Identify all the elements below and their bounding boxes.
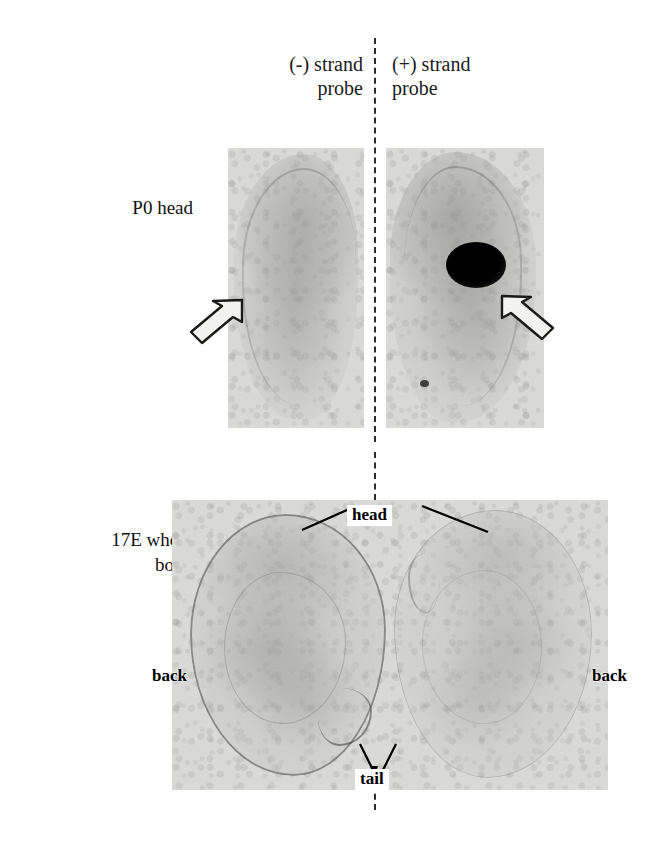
figure-root: (-) strand probe (+) strand probe P0 hea… [0,0,664,842]
column-header-negative-strand: (-) strand probe [228,52,363,101]
panel-17e-whole-body [172,500,608,790]
row-label-17e-whole-body: 17E whole body [8,528,193,577]
annotation-head: head [347,505,392,526]
autoradiograph-film [386,148,544,428]
annotation-back-left: back [152,667,187,686]
panel-p0-head-negative-strand [228,148,364,428]
autoradiograph-film [172,500,608,790]
autoradiograph-film [228,148,364,428]
panel-p0-head-positive-strand [386,148,544,428]
annotation-tail: tail [355,769,389,790]
arrow-icon-negative-strand [186,296,248,352]
annotation-back-right: back [592,667,627,686]
center-dashed-divider-top [374,38,376,442]
film-artifact-fleck [420,380,429,387]
column-header-positive-strand: (+) strand probe [392,52,542,101]
center-dashed-divider-middle [374,452,376,500]
hybridization-signal-spot [446,242,506,288]
arrow-icon-positive-strand [496,292,558,348]
row-label-p0-head: P0 head [18,196,193,221]
